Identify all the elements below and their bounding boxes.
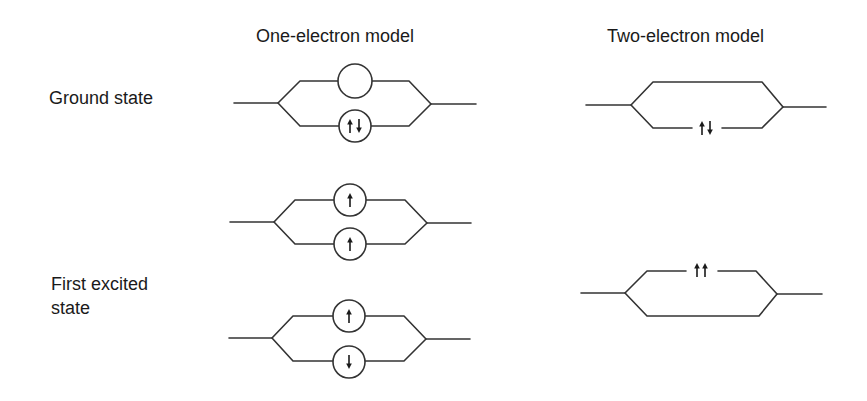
diagram-one-electron-excited-up-up — [230, 184, 471, 260]
diagram-two-electron-ground — [586, 82, 826, 135]
spin-down-arrow-icon — [707, 121, 713, 135]
orbital-paired-icon — [339, 110, 371, 142]
spin-up-arrow-icon — [702, 263, 708, 277]
spin-up-arrow-icon — [699, 121, 705, 135]
diagram-one-electron-ground — [234, 64, 476, 142]
spin-up-arrow-icon — [694, 263, 700, 277]
diagram-one-electron-excited-up-down — [229, 300, 470, 378]
diagram-two-electron-excited — [581, 263, 822, 316]
orbital-diagrams — [0, 0, 867, 401]
orbital-empty-icon — [338, 64, 372, 98]
